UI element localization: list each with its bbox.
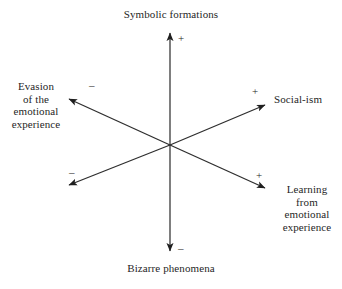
axis-rising-positive xyxy=(170,105,265,145)
axis-label-lower-right: Learning from emotional experience xyxy=(274,183,340,233)
polarity-sign-upper-left: – xyxy=(89,80,95,91)
polarity-sign-lower-right: + xyxy=(256,170,262,181)
axis-label-top: Symbolic formations xyxy=(112,8,230,21)
polarity-sign-top: + xyxy=(178,33,184,44)
polarity-sign-bottom: – xyxy=(178,243,184,254)
axis-falling-positive xyxy=(170,145,265,188)
axis-label-upper-left: Evasion of the emotional experience xyxy=(6,80,66,130)
polarity-sign-lower-left: – xyxy=(69,167,75,178)
axis-label-bottom: Bizarre phenomena xyxy=(110,262,232,275)
polarity-sign-upper-right: + xyxy=(252,86,258,97)
axis-label-upper-right: Social-ism xyxy=(274,93,340,106)
axis-rising-negative xyxy=(69,145,170,185)
axis-falling-negative xyxy=(69,99,170,145)
diagram-canvas: Symbolic formations Bizarre phenomena Ev… xyxy=(0,0,342,289)
axes-group xyxy=(0,0,342,289)
